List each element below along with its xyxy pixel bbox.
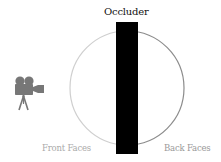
front-faces-label: Front Faces bbox=[42, 143, 91, 153]
occluder-label: Occluder bbox=[104, 6, 149, 17]
back-faces-label: Back Faces bbox=[164, 143, 210, 153]
diagram-canvas bbox=[0, 0, 221, 162]
movie-camera-icon bbox=[15, 76, 44, 110]
occluder-bar bbox=[116, 22, 138, 154]
